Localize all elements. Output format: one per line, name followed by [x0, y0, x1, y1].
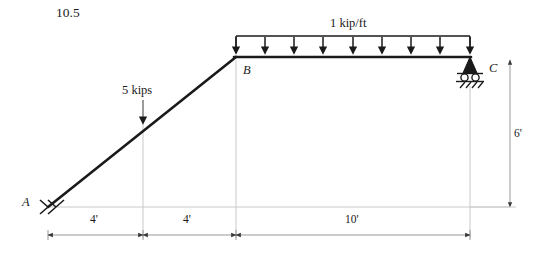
support-c-roller	[456, 57, 484, 88]
distributed-load-label: 1 kip/ft	[330, 17, 366, 30]
node-label-b: B	[243, 64, 251, 77]
node-label-a: A	[22, 196, 30, 209]
construction-lines	[48, 60, 510, 238]
point-load-label: 5 kips	[122, 84, 152, 97]
member-a-b	[48, 57, 236, 207]
distributed-load-arrows	[236, 37, 470, 53]
dimension-label-bc: 10'	[345, 214, 359, 226]
support-c-roller-right	[472, 74, 479, 81]
dimension-label-ab2: 4'	[183, 214, 191, 226]
diagram-canvas	[0, 0, 542, 255]
support-c-roller-left	[461, 74, 468, 81]
dimension-label-height: 6'	[514, 128, 522, 140]
structural-diagram: 10.5 1 kip/ft 5 kips A B C 4' 4' 10' 6'	[0, 0, 542, 255]
support-a-chevron-outer	[40, 200, 48, 214]
distributed-load-group	[236, 36, 470, 53]
horizontal-dimensions	[48, 230, 470, 240]
dimension-label-ab1: 4'	[90, 214, 98, 226]
frame-members	[48, 57, 471, 207]
support-c-triangle	[463, 57, 477, 73]
problem-number: 10.5	[56, 6, 80, 20]
support-c-hatching	[460, 82, 483, 88]
node-label-c: C	[489, 62, 497, 75]
